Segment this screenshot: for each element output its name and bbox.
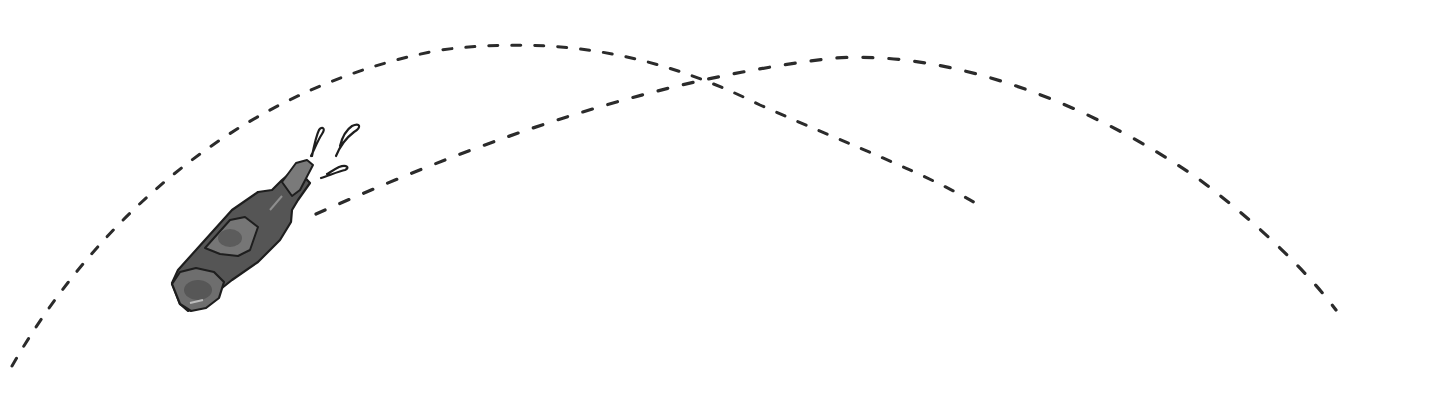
bottle — [172, 160, 313, 311]
base-shading — [184, 280, 212, 300]
outer-arc-trajectory — [12, 45, 982, 366]
sketch-illustration — [0, 0, 1440, 398]
droplet-3 — [321, 166, 347, 178]
illustration-canvas — [0, 0, 1440, 398]
droplets — [311, 125, 359, 178]
droplet-1 — [311, 128, 324, 156]
inner-arc-trajectory — [316, 57, 1336, 310]
droplet-2 — [336, 125, 359, 156]
label-shading — [218, 229, 242, 247]
